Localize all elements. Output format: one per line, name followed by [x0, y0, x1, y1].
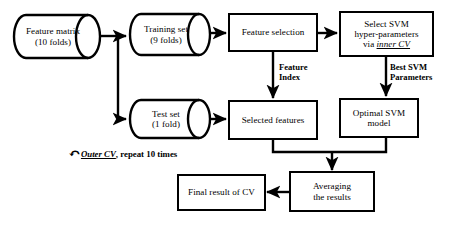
flowchart-diagram: Feature matrix (10 folds) Training set (…: [0, 0, 454, 230]
node-final-result-line1: Final result of CV: [188, 187, 255, 197]
edge-label-best-svm-parameters: Best SVM Parameters: [390, 62, 432, 83]
node-select-svm-hyperparameters: Select SVM hyper-parameters via inner CV: [339, 11, 434, 57]
node-select-svm-inner-cv: inner CV: [377, 39, 411, 49]
edge-label-best-params-line2: Parameters: [390, 72, 432, 82]
node-averaging-label: Averaging the results: [311, 181, 353, 201]
outer-cv-rest: , repeat 10 times: [116, 149, 177, 159]
node-test-set-label: Test set (1 fold): [150, 109, 182, 129]
node-training-set: Training set (9 folds): [128, 12, 212, 57]
node-training-set-line2: (9 folds): [144, 35, 188, 45]
node-feature-matrix: Feature matrix (10 folds): [12, 13, 102, 60]
edge-label-feature-index-line2: Index: [279, 72, 307, 82]
node-averaging-line1: Averaging: [313, 181, 351, 191]
node-select-svm-line2: hyper-parameters: [354, 29, 418, 39]
edge-label-feature-index-line1: Feature: [279, 62, 307, 72]
node-feature-matrix-line1: Feature matrix: [26, 26, 80, 36]
node-final-result: Final result of CV: [177, 174, 266, 211]
node-test-set: Test set (1 fold): [128, 98, 212, 140]
node-final-result-label: Final result of CV: [186, 187, 257, 197]
loop-arrow-icon: ↶: [68, 147, 81, 160]
node-feature-selection: Feature selection: [228, 13, 318, 52]
node-optimal-model-line2: model: [353, 118, 405, 128]
node-selected-features-line1: Selected features: [242, 115, 305, 125]
edge-label-feature-index: Feature Index: [279, 62, 307, 83]
node-feature-selection-line1: Feature selection: [242, 27, 305, 37]
edge-label-best-params-line1: Best SVM: [390, 62, 432, 72]
node-select-svm-line3: via inner CV: [354, 39, 418, 49]
node-averaging-line2: the results: [313, 192, 351, 202]
node-averaging-results: Averaging the results: [289, 171, 375, 212]
node-test-set-line1: Test set: [152, 109, 180, 119]
outer-cv-loop-note: ↶Outer CV, repeat 10 times: [69, 146, 177, 159]
node-optimal-svm-model: Optimal SVM model: [339, 98, 419, 138]
outer-cv-emphasis: Outer CV: [81, 149, 116, 159]
node-feature-matrix-line2: (10 folds): [26, 37, 80, 47]
node-training-set-line1: Training set: [144, 24, 188, 34]
node-select-svm-line1: Select SVM: [354, 19, 418, 29]
node-select-svm-line3-prefix: via: [363, 39, 377, 49]
node-test-set-line2: (1 fold): [152, 119, 180, 129]
node-training-set-label: Training set (9 folds): [142, 24, 190, 44]
node-optimal-model-label: Optimal SVM model: [351, 108, 407, 128]
node-select-svm-label: Select SVM hyper-parameters via inner CV: [352, 19, 420, 50]
node-selected-features-label: Selected features: [240, 115, 307, 125]
node-feature-selection-label: Feature selection: [240, 27, 307, 37]
node-selected-features: Selected features: [228, 100, 318, 140]
node-feature-matrix-label: Feature matrix (10 folds): [24, 26, 82, 46]
node-optimal-model-line1: Optimal SVM: [353, 108, 405, 118]
edge-merge-bus: [273, 138, 386, 152]
